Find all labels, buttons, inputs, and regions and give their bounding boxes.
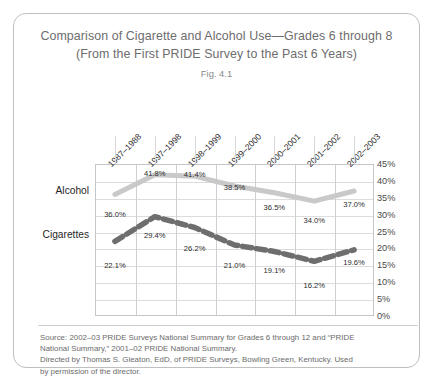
data-point-label: 41.8% — [144, 169, 166, 178]
figure-title-line-2: (From the First PRIDE Survey to the Past… — [14, 45, 419, 63]
y-axis-tick-label: 40% — [377, 176, 395, 186]
y-axis-tick-label: 25% — [377, 227, 395, 237]
x-axis-tick-stem — [235, 136, 236, 164]
chart-plot-area: 45%40%35%30%25%20%15%10%5%0%1987–1988199… — [14, 106, 419, 324]
y-axis-tick-label: 35% — [377, 193, 395, 203]
y-axis-tick-label: 30% — [377, 210, 395, 220]
source-line-4: by permission of the director. — [40, 366, 415, 377]
y-axis-tick-label: 15% — [377, 260, 395, 270]
data-point-label: 37.0% — [343, 200, 365, 209]
data-point-label: 34.0% — [303, 216, 325, 225]
data-point-label: 26.2% — [184, 244, 206, 253]
y-axis-tick-label: 10% — [377, 277, 395, 287]
figure-card: Comparison of Cigarette and Alcohol Use—… — [13, 13, 420, 368]
series-label-alcohol: Alcohol — [22, 185, 89, 196]
figure-title-line-1: Comparison of Cigarette and Alcohol Use—… — [14, 27, 419, 45]
series-label-cigarettes: Cigarettes — [22, 229, 89, 240]
x-axis-tick-stem — [354, 136, 355, 164]
data-point-label: 36.5% — [264, 203, 286, 212]
data-point-label: 16.2% — [303, 281, 325, 290]
y-axis-tick-label: 20% — [377, 243, 395, 253]
source-line-1: Source: 2002–03 PRIDE Surveys National S… — [40, 332, 415, 343]
x-axis-tick-stem — [274, 136, 275, 164]
data-point-label: 38.5% — [224, 183, 246, 192]
figure-number: Fig. 4.1 — [14, 66, 419, 82]
data-point-label: 22.1% — [104, 261, 126, 270]
data-point-label: 19.6% — [343, 258, 365, 267]
data-point-label: 41.4% — [184, 170, 206, 179]
data-point-label: 29.4% — [144, 231, 166, 240]
x-axis-tick-stem — [115, 136, 116, 164]
data-point-label: 36.0% — [104, 210, 126, 219]
y-axis-tick-label: 0% — [377, 311, 390, 321]
source-line-2: National Summary,” 2001–02 PRIDE Nationa… — [40, 343, 415, 354]
source-line-3: Directed by Thomas S. Gleaton, EdD, of P… — [40, 354, 415, 365]
data-point-label: 21.0% — [224, 261, 246, 270]
figure-title-block: Comparison of Cigarette and Alcohol Use—… — [14, 14, 419, 82]
source-note: Source: 2002–03 PRIDE Surveys National S… — [40, 332, 415, 377]
data-point-label: 19.1% — [264, 266, 286, 275]
source-divider — [38, 325, 418, 326]
y-axis-tick-label: 5% — [377, 294, 390, 304]
x-axis-tick-stem — [155, 136, 156, 164]
x-axis-tick-stem — [314, 136, 315, 164]
y-axis-tick-label: 45% — [377, 159, 395, 169]
x-axis-tick-stem — [195, 136, 196, 164]
